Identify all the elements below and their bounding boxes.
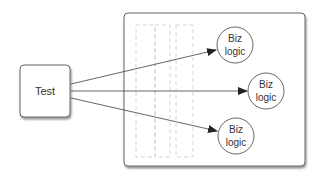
biz-logic-node-3: Biz logic — [218, 118, 254, 154]
biz-logic-label-line1: Biz — [259, 79, 273, 90]
test-node: Test — [20, 65, 70, 117]
biz-logic-label-line1: Biz — [228, 33, 242, 44]
diagram-canvas: Test Biz logic Biz logic Biz logic — [0, 0, 322, 180]
biz-logic-label-line1: Biz — [229, 124, 243, 135]
test-node-label: Test — [35, 85, 55, 97]
biz-logic-label-line2: logic — [256, 92, 277, 103]
biz-logic-node-2: Biz logic — [248, 73, 284, 109]
biz-logic-label-line2: logic — [225, 46, 246, 57]
biz-logic-label-line2: logic — [226, 137, 247, 148]
biz-logic-node-1: Biz logic — [217, 27, 253, 63]
